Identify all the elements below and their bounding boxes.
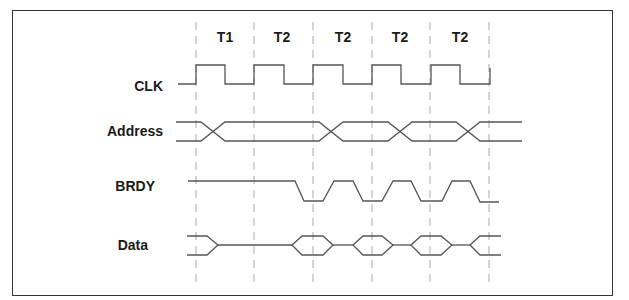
signal-label-data: Data [118, 237, 149, 253]
state-label-t2: T2 [392, 29, 409, 45]
state-label-t2: T2 [452, 29, 469, 45]
address-waveform [176, 122, 522, 141]
data-waveform [187, 236, 501, 255]
state-label-t1: T1 [217, 29, 234, 45]
clock-state-labels: T1 T2 T2 T2 T2 [217, 29, 469, 45]
signal-label-clk: CLK [134, 78, 163, 94]
state-label-t2: T2 [274, 29, 291, 45]
brdy-waveform [188, 181, 499, 202]
timing-diagram: T1 T2 T2 T2 T2 CLK Address BRDY Data [0, 0, 629, 300]
clk-waveform [178, 65, 490, 84]
state-label-t2: T2 [335, 29, 352, 45]
signal-labels: CLK Address BRDY Data [107, 78, 163, 253]
signal-label-address: Address [107, 123, 163, 139]
signal-label-brdy: BRDY [115, 178, 155, 194]
